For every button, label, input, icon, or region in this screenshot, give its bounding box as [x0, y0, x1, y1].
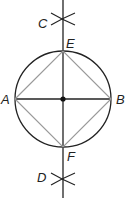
label-b: B — [116, 92, 125, 107]
label-a: A — [0, 92, 10, 107]
diagram-canvas: C E A B F D — [0, 0, 134, 198]
label-e: E — [66, 36, 75, 51]
label-c: C — [38, 16, 48, 31]
label-f: F — [67, 149, 76, 164]
label-d: D — [37, 170, 46, 185]
center-dot — [60, 96, 65, 101]
